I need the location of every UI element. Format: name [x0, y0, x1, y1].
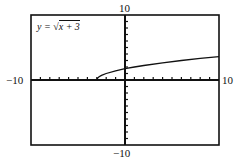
graph-window	[0, 0, 236, 161]
y-min-label: −10	[113, 148, 130, 159]
function-curve	[97, 57, 219, 80]
radical-sign: √	[53, 21, 59, 32]
equation-label: y = √x + 3	[37, 21, 80, 32]
axes	[31, 15, 219, 145]
radicand: x + 3	[59, 20, 80, 32]
x-max-label: 10	[222, 75, 233, 86]
y-max-label: 10	[119, 3, 130, 14]
x-min-label: −10	[6, 75, 23, 86]
